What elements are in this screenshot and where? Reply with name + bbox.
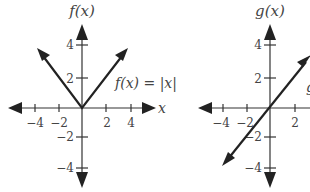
f-x-axis-right-arrow-icon <box>142 102 156 114</box>
f-xtick-2: 2 <box>103 116 111 130</box>
g-curve-up-arrow-icon <box>297 55 310 67</box>
f-ytick-4: 4 <box>66 38 74 52</box>
g-ytick-neg4: −4 <box>244 161 262 175</box>
g-ytick-4: 4 <box>254 38 262 52</box>
f-xtick-4: 4 <box>127 116 135 130</box>
f-ytick-neg2: −2 <box>56 130 74 144</box>
g-ytick-2: 2 <box>254 72 262 86</box>
g-y-axis-down-arrow-icon <box>264 172 276 188</box>
g-formula-label: g <box>306 79 310 95</box>
f-curve-left-arrow-icon <box>37 48 50 61</box>
g-x-axis-left-arrow-icon <box>198 102 212 114</box>
g-y-axis-label: g(x) <box>255 2 285 20</box>
f-curve-right-arrow-icon <box>115 48 128 61</box>
f-ytick-2: 2 <box>66 72 74 86</box>
f-y-axis-down-arrow-icon <box>76 172 88 188</box>
f-y-axis-up-arrow-icon <box>76 24 88 40</box>
graphs-canvas: −4 −2 2 4 4 2 −2 −4 f(x) x f(x) = |x| <box>0 0 310 192</box>
f-xtick-neg2: −2 <box>50 116 68 130</box>
f-formula-label: f(x) = |x| <box>114 75 177 92</box>
g-xtick-neg2: −2 <box>236 116 254 130</box>
g-xtick-2: 2 <box>291 116 299 130</box>
g-y-axis-up-arrow-icon <box>264 24 276 40</box>
f-ytick-neg4: −4 <box>56 161 74 175</box>
f-x-axis-left-arrow-icon <box>8 102 22 114</box>
g-curve <box>228 62 306 159</box>
f-x-axis-label: x <box>158 100 166 116</box>
f-y-axis-label: f(x) <box>68 2 95 20</box>
g-xtick-neg4: −4 <box>212 116 230 130</box>
f-graph: −4 −2 2 4 4 2 −2 −4 f(x) x f(x) = |x| <box>8 2 177 188</box>
g-graph: −4 −2 2 4 2 −2 −4 g(x) g <box>198 2 310 188</box>
f-xtick-neg4: −4 <box>26 116 44 130</box>
